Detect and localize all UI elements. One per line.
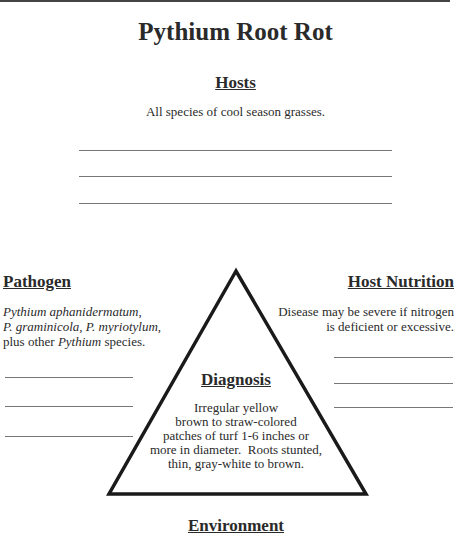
diagnosis-heading-text: Diagnosis [201, 370, 271, 389]
pathogen-line-1: Pythium aphanidermatum, [3, 304, 161, 319]
pathogen-text: Pythium aphanidermatum, P. graminicola, … [3, 304, 161, 349]
diagnosis-heading: Diagnosis [136, 370, 336, 390]
pathogen-line-3: plus other Pythium species. [3, 334, 161, 349]
pathogen-line-2: P. graminicola, P. myriotylum, [3, 319, 161, 334]
host-nutrition-blank-line-2[interactable] [334, 383, 453, 384]
host-nutrition-line-2: is deficient or excessive. [278, 319, 454, 334]
diagnosis-text: Irregular yellow brown to straw-colored … [136, 401, 336, 471]
environment-heading: Environment [136, 516, 336, 536]
host-nutrition-line-1: Disease may be severe if nitrogen [278, 304, 454, 319]
pathogen-heading: Pathogen [3, 272, 71, 292]
diagnosis-line-4: more in diameter. Roots stunted, [136, 443, 336, 457]
environment-heading-text: Environment [188, 516, 284, 535]
pathogen-blank-line-3[interactable] [5, 436, 133, 437]
pathogen-blank-line-2[interactable] [5, 406, 133, 407]
host-nutrition-text: Disease may be severe if nitrogen is def… [278, 304, 454, 334]
diagnosis-line-2: brown to straw-colored [136, 415, 336, 429]
diagnosis-line-1: Irregular yellow [136, 401, 336, 415]
host-nutrition-heading-text: Host Nutrition [348, 272, 454, 291]
host-nutrition-blank-line-3[interactable] [334, 407, 453, 408]
host-nutrition-blank-line-1[interactable] [334, 357, 453, 358]
diagnosis-line-5: thin, gray-white to brown. [136, 457, 336, 471]
pathogen-blank-line-1[interactable] [5, 377, 133, 378]
diagnosis-line-3: patches of turf 1-6 inches or [136, 429, 336, 443]
pathogen-heading-text: Pathogen [3, 272, 71, 291]
host-nutrition-heading: Host Nutrition [348, 272, 454, 292]
